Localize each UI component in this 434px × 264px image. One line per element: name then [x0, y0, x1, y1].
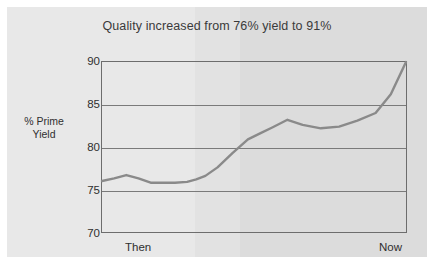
y-tick-label-70: 70 — [62, 227, 100, 239]
data-line-svg — [102, 62, 406, 232]
x-tick-label-now: Now — [379, 241, 402, 253]
chart-panel: Quality increased from 76% yield to 91% … — [7, 7, 427, 257]
y-tick-label-75: 75 — [62, 184, 100, 196]
series-line-prime-yield — [102, 62, 406, 183]
plot-area — [101, 61, 407, 233]
chart-screenshot: Quality increased from 76% yield to 91% … — [0, 0, 434, 264]
y-tick-label-90: 90 — [62, 55, 100, 67]
y-axis-tick-labels: 90 85 80 75 70 — [62, 7, 100, 257]
x-tick-label-then: Then — [125, 241, 151, 253]
y-tick-label-80: 80 — [62, 141, 100, 153]
y-tick-label-85: 85 — [62, 98, 100, 110]
